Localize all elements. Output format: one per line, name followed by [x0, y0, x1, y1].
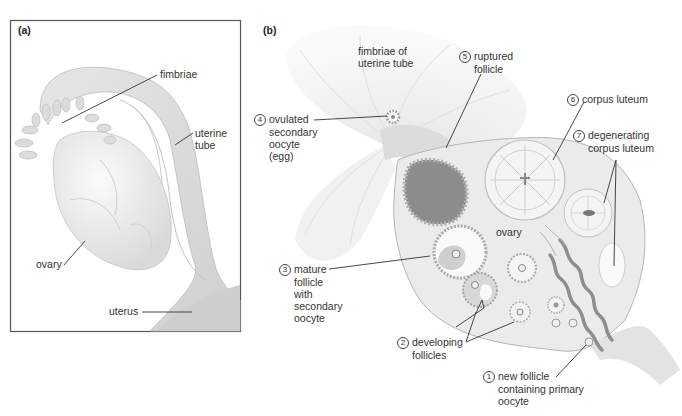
circled-number-2: 2: [397, 337, 409, 349]
circled-number-5: 5: [459, 51, 471, 63]
diagram-artwork: [0, 0, 682, 416]
label-stage-2: 2developing follicles: [397, 336, 463, 361]
circled-number-3: 3: [279, 264, 291, 276]
circled-number-1: 1: [483, 371, 495, 383]
panel-b-tag: (b): [263, 24, 276, 36]
label-ovary-b: ovary: [496, 226, 522, 238]
label-stage-6: 6corpus luteum: [567, 93, 648, 106]
panel-a-tag: (a): [18, 24, 31, 36]
circled-number-7: 7: [573, 130, 585, 142]
corpus-luteum-illustration: [485, 140, 565, 220]
label-stage-5: 5ruptured follicle: [459, 50, 513, 75]
circled-number-6: 6: [567, 94, 579, 106]
label-stage-1: 1new follicle containing primary oocyte: [483, 370, 584, 407]
mature-follicle-illustration: [434, 226, 486, 278]
label-uterine-tube: uterine tube: [195, 127, 227, 151]
circled-number-4: 4: [254, 114, 266, 126]
label-stage-3: 3mature follicle with secondary oocyte: [279, 263, 342, 324]
label-uterus: uterus: [109, 305, 138, 317]
label-ovary-a: ovary: [36, 258, 62, 270]
label-stage-4: 4ovulated secondary oocyte (egg): [254, 113, 317, 162]
panel-b: [285, 25, 680, 385]
label-fimbriae-of-uterine-tube: fimbriae of uterine tube: [358, 45, 413, 69]
label-stage-7: 7degenerating corpus luteum: [573, 129, 654, 154]
label-fimbriae: fimbriae: [160, 68, 197, 80]
panel-a: [11, 21, 241, 332]
